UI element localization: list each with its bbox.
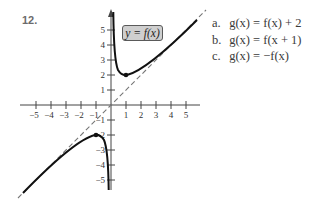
x-tick-label: 3 [154, 110, 159, 120]
y-tick-label: 3 [101, 55, 106, 65]
part-text: g(x) = f(x + 1) [229, 33, 301, 47]
point-minimum [124, 73, 129, 78]
function-label: y = f(x) [122, 25, 163, 41]
x-tick-label: −5 [29, 110, 39, 120]
part-text: g(x) = −f(x) [229, 49, 289, 63]
y-tick-label: 5 [101, 25, 106, 35]
part-c: c. g(x) = −f(x) [212, 48, 302, 65]
x-tick-label: 4 [169, 110, 174, 120]
x-tick-label: −4 [44, 110, 54, 120]
x-tick-label: −2 [74, 110, 84, 120]
part-b: b. g(x) = f(x + 1) [212, 32, 302, 49]
y-tick-label: −4 [95, 160, 105, 170]
curve-upper-branch [113, 12, 197, 75]
y-tick-label: 1 [101, 85, 106, 95]
y-tick-label: −3 [95, 145, 105, 155]
x-tick-label: 2 [139, 110, 144, 120]
point-maximum [94, 133, 99, 138]
x-tick-label: 5 [184, 110, 189, 120]
part-label: c. [212, 48, 226, 65]
part-text: g(x) = f(x) + 2 [229, 16, 301, 30]
y-tick-label: 2 [101, 70, 106, 80]
x-tick-label: −3 [59, 110, 69, 120]
part-a: a. g(x) = f(x) + 2 [212, 15, 302, 32]
y-tick-label: −5 [95, 175, 105, 185]
part-label: a. [212, 15, 226, 32]
y-tick-label: 4 [101, 40, 106, 50]
parts-list: a. g(x) = f(x) + 2 b. g(x) = f(x + 1) c.… [212, 15, 302, 65]
x-tick-label: 1 [124, 110, 129, 120]
part-label: b. [212, 32, 226, 49]
